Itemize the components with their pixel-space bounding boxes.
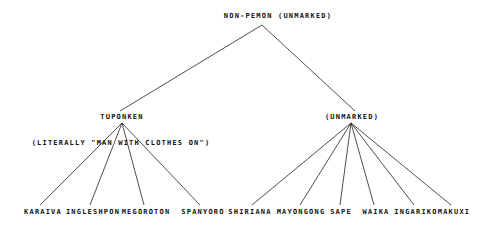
root-node: NON-PEMON (UNMARKED) [224, 12, 332, 20]
leaf-megoroton: MEGOROTON [122, 208, 171, 216]
leaf-ingleshpon: INGLESHPON [66, 208, 120, 216]
leaf-karaiva: KARAIVA [24, 208, 62, 216]
taxonomy-diagram: NON-PEMON (UNMARKED) TUPONKEN (LITERALLY… [0, 0, 498, 225]
leaf-sape: SAPE [330, 208, 352, 216]
tree-lines [0, 0, 498, 225]
node-unmarked: (UNMARKED) [325, 113, 379, 121]
node-tuponken-gloss: (LITERALLY "MAN WITH CLOTHES ON") [32, 139, 211, 147]
leaf-shiriana: SHIRIANA [228, 208, 271, 216]
leaf-ingariko: INGARIKO [394, 208, 437, 216]
leaf-spanyoro: SPANYORO [181, 208, 224, 216]
leaf-mayongong: MAYONGONG [277, 208, 326, 216]
leaf-makuxi: MAKUXI [438, 208, 471, 216]
leaf-waika: WAIKA [362, 208, 389, 216]
node-tuponken: TUPONKEN [100, 113, 143, 121]
